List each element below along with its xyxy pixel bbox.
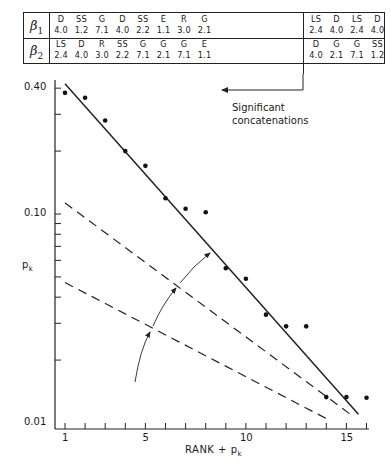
data-point [123,149,128,154]
data-point [264,312,269,317]
data-point [183,206,188,211]
rank-frequency-plot [0,0,391,468]
data-point [63,91,68,96]
data-point [163,196,168,201]
data-point [304,324,309,329]
data-point [344,395,349,400]
y-tick-label: 0.40 [24,81,46,92]
chart-lines [65,84,358,419]
data-point [224,266,229,271]
data-point [324,395,329,400]
x-tick-label: 10 [240,432,253,443]
x-tick-label: 15 [340,432,353,443]
curved-arrow [135,332,150,382]
curved-arrow-end [180,253,210,283]
data-point [143,164,148,169]
fitted-line [65,84,358,415]
y-tick-label: 0.01 [24,416,46,427]
data-points [63,91,369,401]
dashed-bound-line [65,203,350,414]
data-point [103,118,108,123]
annotation-bracket [222,74,303,90]
data-point [364,396,369,401]
curved-arrow-mid [153,288,176,326]
y-axis-ticks [55,88,61,360]
data-point [244,276,249,281]
x-tick-label: 5 [142,432,148,443]
data-point [83,95,88,100]
x-axis-title: RANK + pk [185,444,242,458]
data-point [203,210,208,215]
x-tick-label: 1 [62,432,68,443]
significant-concatenations-label: Significant concatenations [232,101,308,127]
dashed-bound-line [65,283,326,419]
x-axis-ticks [65,423,367,429]
y-tick-label: 0.10 [24,207,46,218]
y-axis-title: pk [22,259,33,273]
data-point [284,324,289,329]
